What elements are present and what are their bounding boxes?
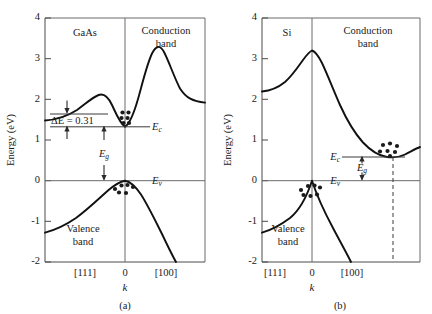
panel-b-y-tick-4: 4 bbox=[252, 11, 258, 22]
panel-a-delta-e-text: ΔE = 0.31 bbox=[51, 115, 94, 126]
panel-a-valence-label-line1: Valence bbox=[66, 223, 100, 234]
y-tick-2: 2 bbox=[35, 93, 40, 104]
figure-svg: 4 3 2 1 0 -1 -2 Energy (eV) Ec Ev bbox=[0, 0, 432, 314]
panel-a-material-label: GaAs bbox=[73, 27, 97, 38]
panel-b-y-tick-1: 1 bbox=[252, 133, 257, 144]
y-tick-neg2: -2 bbox=[31, 255, 40, 266]
y-tick-0: 0 bbox=[35, 174, 40, 185]
panel-a-conduction-label-line2: band bbox=[156, 38, 177, 49]
panel-b-y-tick-neg2: -2 bbox=[248, 255, 257, 266]
y-tick-neg1: -1 bbox=[31, 215, 40, 226]
panel-b-valence-label-line1: Valence bbox=[271, 223, 305, 234]
panel-b-y-tick-0: 0 bbox=[252, 174, 257, 185]
panel-b-y-axis-title: Energy (eV) bbox=[222, 114, 234, 166]
panel-a-x-ticks: [111] 0 [100] bbox=[74, 267, 177, 278]
panel-b-conduction-label-line1: Conduction bbox=[344, 25, 394, 36]
panel-b-x-ticks: [111] 0 [100] bbox=[264, 267, 363, 278]
panel-b-conduction-label-line2: band bbox=[358, 38, 379, 49]
panel-a-caption: (a) bbox=[119, 300, 131, 312]
panel-a-valence-label-line2: band bbox=[73, 236, 94, 247]
panel-b-caption: (b) bbox=[334, 300, 347, 312]
y-tick-4: 4 bbox=[35, 11, 41, 22]
panel-b-x-tick-111: [111] bbox=[264, 267, 286, 278]
panel-a-x-tick-111: [111] bbox=[74, 267, 96, 278]
y-tick-3: 3 bbox=[35, 52, 40, 63]
panel-b-material-label: Si bbox=[283, 27, 292, 38]
panel-b-x-tick-0: 0 bbox=[309, 267, 314, 278]
y-axis-title: Energy (eV) bbox=[5, 114, 17, 166]
panel-b-y-tick-2: 2 bbox=[252, 93, 257, 104]
panel-b-y-tick-3: 3 bbox=[252, 52, 257, 63]
panel-a-x-tick-100: [100] bbox=[155, 267, 178, 278]
panel-b-valence-label-line2: band bbox=[278, 236, 299, 247]
panel-b-y-tick-neg1: -1 bbox=[248, 215, 257, 226]
panel-a-x-tick-0: 0 bbox=[122, 267, 127, 278]
band-structure-figure: 4 3 2 1 0 -1 -2 Energy (eV) Ec Ev bbox=[0, 0, 432, 314]
y-tick-1: 1 bbox=[35, 133, 40, 144]
panel-b-x-tick-100: [100] bbox=[341, 267, 364, 278]
panel-a-conduction-label-line1: Conduction bbox=[142, 25, 192, 36]
